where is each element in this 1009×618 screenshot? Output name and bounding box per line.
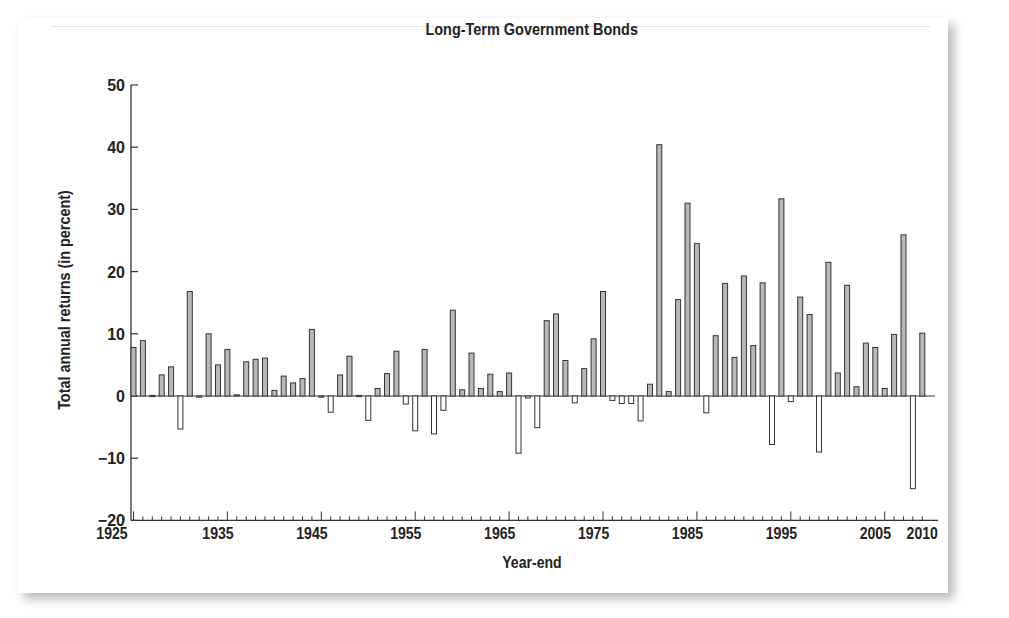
- bar-1968: [525, 396, 530, 398]
- bar-1935: [216, 365, 221, 396]
- bar-1964: [488, 374, 493, 396]
- y-axis-label: Total annual returns (in percent): [55, 190, 73, 410]
- x-tick-label: 1975: [578, 525, 609, 543]
- bar-chart: −20−100102030405019251935194519551965197…: [0, 0, 1009, 618]
- y-tick-label: 30: [107, 201, 125, 218]
- bar-1975: [591, 339, 596, 396]
- bar-1949: [347, 356, 352, 396]
- bar-1977: [610, 396, 615, 400]
- x-tick-label: 2005: [860, 525, 891, 543]
- bar-1951: [366, 396, 371, 420]
- bar-1952: [375, 389, 380, 397]
- x-tick-label: 1955: [390, 525, 421, 543]
- bar-1969: [535, 396, 540, 428]
- bar-1932: [187, 292, 192, 397]
- tick-labels: −20−100102030405019251935194519551965197…: [96, 77, 938, 543]
- bar-1973: [572, 396, 577, 403]
- y-tick-label: 50: [107, 77, 125, 94]
- y-tick-label: 10: [107, 326, 125, 343]
- bar-1965: [497, 392, 502, 396]
- bar-1942: [281, 376, 286, 396]
- bar-1954: [394, 351, 399, 396]
- x-tick-label: 2010: [907, 525, 938, 543]
- bar-2004: [863, 343, 868, 396]
- bar-1989: [723, 283, 728, 396]
- x-axis-label: Year-end: [502, 553, 561, 571]
- y-tick-label: 0: [116, 388, 125, 405]
- bar-2010: [920, 333, 925, 396]
- bar-1979: [629, 396, 634, 404]
- bar-1947: [328, 396, 333, 412]
- bar-1926: [131, 348, 136, 397]
- bar-1998: [807, 315, 812, 397]
- bar-2001: [835, 373, 840, 396]
- bar-1991: [741, 276, 746, 396]
- bar-1974: [582, 369, 587, 396]
- bar-1928: [150, 395, 155, 396]
- bar-1995: [779, 199, 784, 396]
- bar-1986: [694, 244, 699, 396]
- bar-1953: [385, 374, 390, 396]
- axes: [124, 85, 938, 520]
- bar-1948: [338, 375, 343, 396]
- x-tick-label: 1965: [484, 525, 515, 543]
- bar-1988: [713, 336, 718, 396]
- bar-1984: [676, 300, 681, 396]
- y-tick-label: 20: [107, 264, 125, 281]
- bar-1940: [263, 358, 268, 396]
- bar-1929: [159, 375, 164, 396]
- bar-2008: [901, 235, 906, 396]
- y-tick-label: 40: [107, 139, 125, 156]
- bar-2003: [854, 387, 859, 396]
- bar-1955: [403, 396, 408, 404]
- y-tick-label: −10: [98, 450, 125, 467]
- bar-1993: [760, 283, 765, 396]
- bar-1983: [666, 392, 671, 396]
- bar-1997: [798, 297, 803, 396]
- bar-2002: [845, 285, 850, 396]
- bar-1933: [197, 396, 202, 397]
- bar-1961: [460, 390, 465, 396]
- bar-1944: [300, 379, 305, 396]
- bar-1934: [206, 334, 211, 396]
- bar-1959: [441, 396, 446, 410]
- bar-1962: [469, 353, 474, 396]
- bar-1985: [685, 203, 690, 396]
- bar-1971: [554, 314, 559, 396]
- bar-1982: [657, 145, 662, 396]
- bar-1958: [432, 396, 437, 434]
- bar-1978: [619, 396, 624, 404]
- x-tick-label: 1995: [766, 525, 797, 543]
- bar-1972: [563, 361, 568, 397]
- bar-1939: [253, 359, 258, 396]
- bar-1996: [788, 396, 793, 402]
- bar-1999: [817, 396, 822, 452]
- bar-1970: [544, 321, 549, 396]
- bar-1992: [751, 346, 756, 396]
- bar-1960: [450, 310, 455, 396]
- bar-1945: [309, 329, 314, 396]
- bar-1956: [413, 396, 418, 431]
- bar-1943: [291, 383, 296, 396]
- bar-1941: [272, 390, 277, 396]
- bar-1966: [507, 373, 512, 396]
- x-tick-label: 1935: [202, 525, 233, 543]
- x-tick-label: 1945: [296, 525, 327, 543]
- bar-1963: [478, 389, 483, 397]
- bar-1938: [244, 362, 249, 396]
- bar-1987: [704, 396, 709, 413]
- bar-2007: [892, 334, 897, 396]
- x-tick-label: 1925: [96, 525, 127, 543]
- bar-1981: [648, 384, 653, 396]
- bar-1990: [732, 357, 737, 396]
- bar-1980: [638, 396, 643, 421]
- bars: [131, 145, 925, 489]
- bar-1994: [770, 396, 775, 445]
- bar-1931: [178, 396, 183, 429]
- bar-2006: [882, 389, 887, 397]
- bar-1957: [422, 349, 427, 396]
- x-tick-label: 1985: [672, 525, 703, 543]
- bar-1967: [516, 396, 521, 453]
- bar-2000: [826, 262, 831, 396]
- bar-1930: [169, 367, 174, 396]
